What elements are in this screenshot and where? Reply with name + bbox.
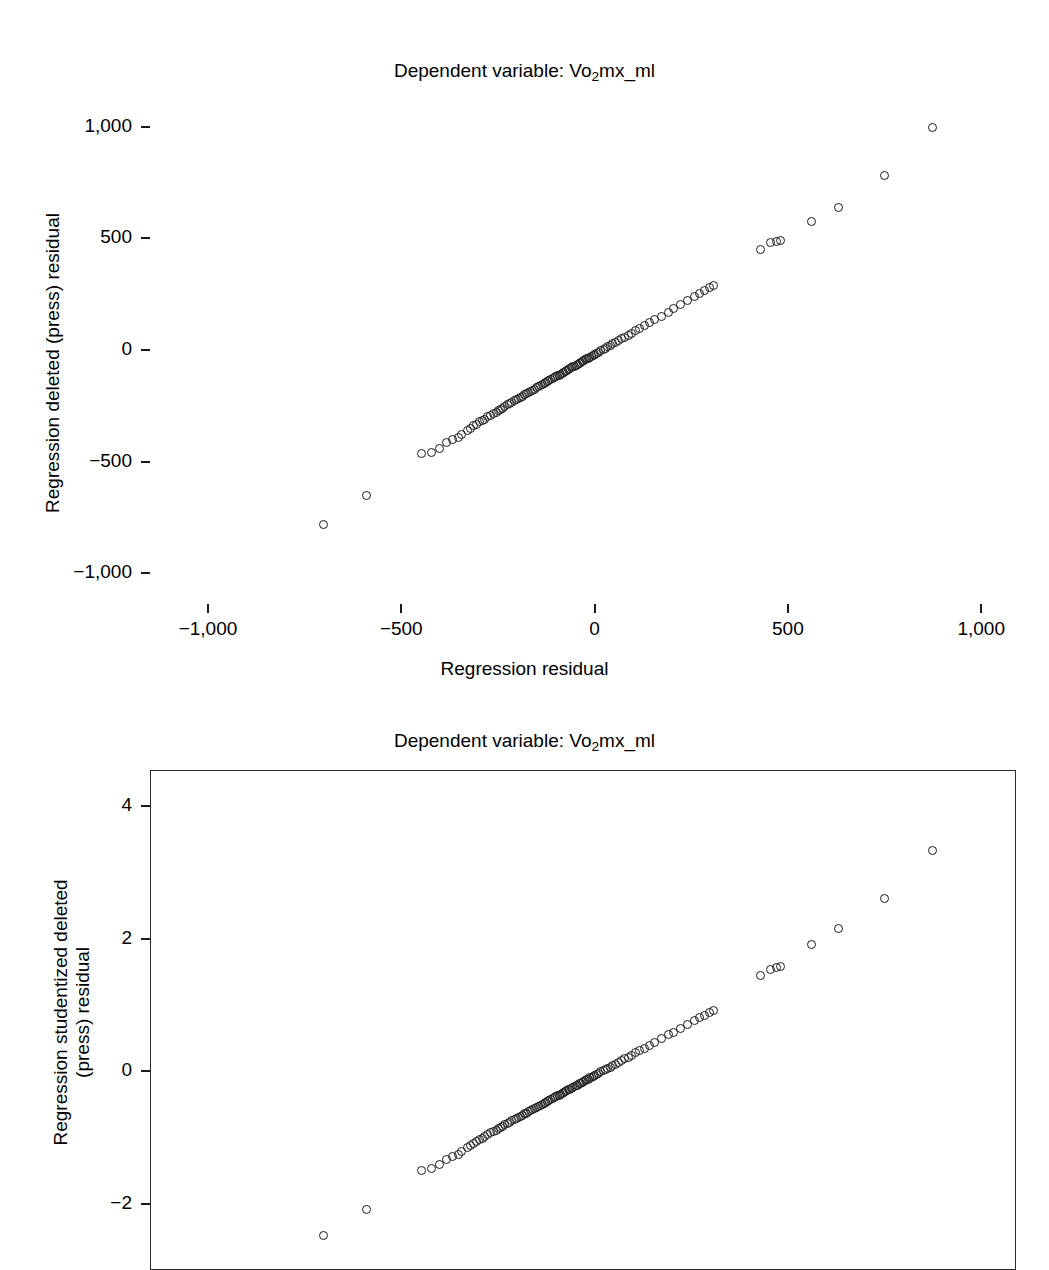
data-point [834,924,843,933]
data-point [319,520,328,529]
x-tick-label: 0 [535,618,655,640]
y-tick-label: 2 [40,927,132,949]
data-point [427,1164,436,1173]
chart-title-top-suffix: mx_ml [599,60,655,81]
x-tick-label: 500 [728,618,848,640]
data-point [756,245,765,254]
x-tick-mark [400,604,402,613]
scatter-plot-top[interactable] [150,100,1016,600]
data-point [756,971,765,980]
data-point [417,1166,426,1175]
chart-title-bottom-prefix: Dependent variable: Vo [394,730,592,751]
y-axis-title-bottom-line1: Regression studentized deleted [50,792,72,1232]
scatter-plot-bottom[interactable] [150,770,1016,1270]
data-point [880,894,889,903]
y-tick-label: 4 [40,794,132,816]
data-point [807,217,816,226]
data-point [880,171,889,180]
data-point [776,962,785,971]
x-tick-label: 1,000 [921,618,1041,640]
y-tick-label: −1,000 [40,561,132,583]
data-point [427,448,436,457]
data-point [417,449,426,458]
data-point [807,940,816,949]
chart-title-top-prefix: Dependent variable: Vo [394,60,592,81]
x-axis-title-top: Regression residual [0,658,1049,680]
x-tick-label: −500 [341,618,461,640]
y-tick-label: 0 [40,338,132,360]
chart-title-bottom-subscript: 2 [591,739,599,754]
x-tick-mark [980,604,982,613]
y-tick-mark [141,461,150,463]
y-tick-label: 1,000 [40,115,132,137]
x-tick-mark [207,604,209,613]
y-tick-mark [141,938,150,940]
y-axis-title-bottom: Regression studentized deleted (press) r… [50,792,95,1232]
x-tick-label: −1,000 [148,618,268,640]
y-tick-label: 500 [40,226,132,248]
data-point [709,281,718,290]
x-tick-mark [594,604,596,613]
y-tick-label: −2 [40,1192,132,1214]
y-tick-mark [141,126,150,128]
data-point [362,491,371,500]
x-tick-mark [787,604,789,613]
data-point [319,1231,328,1240]
y-axis-title-top: Regression deleted (press) residual [42,148,64,578]
data-point [928,123,937,132]
data-point [776,236,785,245]
y-tick-mark [141,237,150,239]
y-tick-mark [141,349,150,351]
y-tick-mark [141,1070,150,1072]
chart-title-top-subscript: 2 [591,69,599,84]
chart-title-bottom-suffix: mx_ml [599,730,655,751]
y-tick-label: 0 [40,1059,132,1081]
data-point [834,203,843,212]
y-tick-label: −500 [40,450,132,472]
chart-panel-deleted-residual: Dependent variable: Vo2mx_ml Regression … [0,0,1049,700]
chart-title-top: Dependent variable: Vo2mx_ml [0,60,1049,84]
data-point [709,1006,718,1015]
y-tick-mark [141,1203,150,1205]
y-tick-mark [141,805,150,807]
data-point [362,1205,371,1214]
y-tick-mark [141,572,150,574]
y-axis-title-bottom-line2: (press) residual [72,792,94,1232]
chart-panel-studentized-residual: Dependent variable: Vo2mx_ml Regression … [0,700,1049,1264]
data-point [928,846,937,855]
chart-title-bottom: Dependent variable: Vo2mx_ml [0,730,1049,754]
